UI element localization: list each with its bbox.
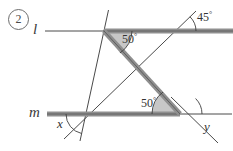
angle-label-y: y — [204, 120, 210, 133]
angle-label-50-bottom-value: 50 — [141, 96, 153, 110]
angle-label-x: x — [57, 117, 63, 130]
degree-symbol-50-bottom: ° — [153, 96, 156, 105]
degree-symbol-45: ° — [209, 10, 212, 19]
transversal-45-lower-extension — [171, 97, 218, 143]
line-label-m: m — [29, 105, 40, 120]
degree-symbol-50-top: ° — [134, 32, 137, 41]
angle-label-50-top: 50° — [122, 33, 137, 45]
angle-arc-y — [196, 99, 202, 115]
angle-label-45-value: 45 — [197, 10, 209, 24]
angle-label-45: 45° — [197, 11, 212, 23]
line-label-l: l — [33, 22, 37, 37]
problem-number: 2 — [8, 9, 29, 30]
angle-label-50-bottom: 50° — [141, 97, 156, 109]
angle-label-50-top-value: 50 — [122, 32, 134, 46]
figure-page: 2 l m 45° 50° 50° x y — [0, 0, 233, 151]
